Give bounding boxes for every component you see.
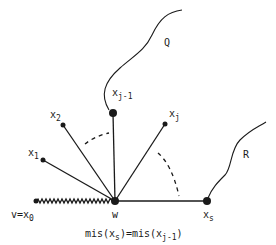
edge-w-xj [115,124,165,201]
label-w: w [112,209,119,220]
label-x0: v=x0 [11,209,34,223]
node-x0 [34,199,39,204]
label-xj-1: xj-1 [112,87,133,101]
graph-diagram: v=x0 x1 x2 xj-1 xj xs w Q R mis(xs)=mis(… [0,0,276,245]
dashed-arc-left [85,133,109,144]
edge-w-xj1 [113,113,115,201]
edge-w-x2 [63,125,115,201]
node-xj [163,122,168,127]
node-x2 [61,123,66,128]
label-xj: xj [169,108,180,122]
caption: mis(xs)=mis(xj-1) [85,228,183,242]
label-q: Q [164,37,170,48]
label-x1: x1 [28,147,39,161]
node-xs [203,197,211,205]
dashed-arc-right [158,153,179,196]
label-r: R [243,149,250,160]
label-x2: x2 [50,109,61,123]
node-x1 [41,158,46,163]
path-r-curve [208,122,266,198]
node-w [111,197,119,205]
zigzag-path-x0-w [36,199,113,203]
node-xj-1 [109,109,117,117]
label-xs: xs [203,209,214,223]
edge-w-x1 [43,160,115,201]
